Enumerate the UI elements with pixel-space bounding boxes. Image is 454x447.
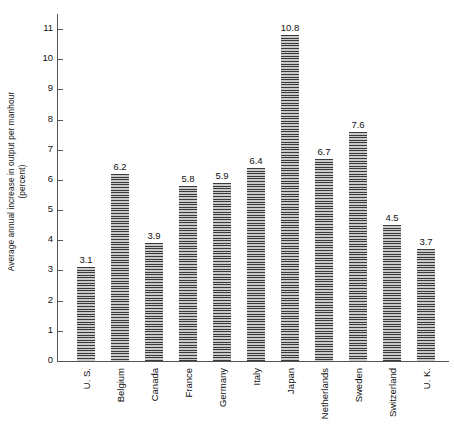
bar-slot: 5.9 bbox=[205, 13, 239, 361]
bar-slot: 10.8 bbox=[273, 13, 307, 361]
bar[interactable] bbox=[247, 168, 265, 361]
bar[interactable] bbox=[315, 159, 333, 361]
x-axis-label: Germany bbox=[217, 368, 228, 407]
y-tick-label: 7 bbox=[29, 143, 53, 154]
y-tick-label: 8 bbox=[29, 113, 53, 124]
x-axis-label: Japan bbox=[285, 368, 296, 394]
y-axis-title-line-1: Average annual increase in output per ma… bbox=[7, 91, 17, 271]
y-tick-label: 11 bbox=[29, 22, 53, 33]
bar-slot: 3.7 bbox=[409, 13, 443, 361]
x-label-slot: Germany bbox=[205, 366, 239, 447]
x-label-slot: U. K. bbox=[409, 366, 443, 447]
y-tick-label: 4 bbox=[29, 233, 53, 244]
x-label-slot: France bbox=[171, 366, 205, 447]
x-label-slot: Italy bbox=[239, 366, 273, 447]
x-label-slot: Japan bbox=[273, 366, 307, 447]
x-axis-label: Belgium bbox=[115, 368, 126, 402]
y-tick-label: 1 bbox=[29, 324, 53, 335]
x-axis-label: Italy bbox=[251, 368, 262, 385]
bar-slot: 6.4 bbox=[239, 13, 273, 361]
bar[interactable] bbox=[417, 249, 435, 361]
y-tick-label: 3 bbox=[29, 263, 53, 274]
bar-slot: 3.9 bbox=[137, 13, 171, 361]
x-axis-label: Sweden bbox=[353, 368, 364, 402]
x-axis-label: Canada bbox=[149, 368, 160, 401]
x-axis-label: U. S. bbox=[81, 368, 92, 389]
x-label-slot: Canada bbox=[137, 366, 171, 447]
bars-layer: 3.16.23.95.85.96.410.86.77.64.53.7 bbox=[57, 14, 449, 362]
bar-slot: 3.1 bbox=[69, 13, 103, 361]
x-axis-label: Switzerland bbox=[387, 368, 398, 417]
bar-slot: 6.7 bbox=[307, 13, 341, 361]
x-label-slot: Belgium bbox=[103, 366, 137, 447]
y-tick-label: 5 bbox=[29, 203, 53, 214]
x-label-slot: Sweden bbox=[341, 366, 375, 447]
bar[interactable] bbox=[145, 243, 163, 361]
x-axis-labels: U. S.BelgiumCanadaFranceGermanyItalyJapa… bbox=[57, 366, 449, 447]
bar-slot: 5.8 bbox=[171, 13, 205, 361]
y-tick-label: 6 bbox=[29, 173, 53, 184]
x-axis-label: Netherlands bbox=[319, 368, 330, 419]
bar[interactable] bbox=[213, 183, 231, 361]
x-label-slot: U. S. bbox=[69, 366, 103, 447]
x-label-slot: Netherlands bbox=[307, 366, 341, 447]
bar[interactable] bbox=[383, 225, 401, 361]
bar-slot: 6.2 bbox=[103, 13, 137, 361]
y-tick-label: 0 bbox=[29, 354, 53, 365]
y-axis-title-line-2: (percent) bbox=[17, 164, 27, 198]
bar[interactable] bbox=[349, 132, 367, 361]
y-tick-label: 10 bbox=[29, 52, 53, 63]
bar[interactable] bbox=[179, 186, 197, 361]
y-tick-label: 2 bbox=[29, 294, 53, 305]
bar[interactable] bbox=[111, 174, 129, 361]
bar-slot: 7.6 bbox=[341, 13, 375, 361]
x-axis-label: U. K. bbox=[421, 368, 432, 389]
bar[interactable] bbox=[281, 35, 299, 361]
bar-chart: Average annual increase in output per ma… bbox=[0, 0, 454, 447]
x-label-slot: Switzerland bbox=[375, 366, 409, 447]
bar[interactable] bbox=[77, 267, 95, 361]
x-axis-label: France bbox=[183, 368, 194, 398]
bar-value-label: 3.7 bbox=[403, 236, 449, 247]
plot-area: 01234567891011 3.16.23.95.85.96.410.86.7… bbox=[57, 14, 449, 362]
y-tick-label: 9 bbox=[29, 82, 53, 93]
bar-slot: 4.5 bbox=[375, 13, 409, 361]
